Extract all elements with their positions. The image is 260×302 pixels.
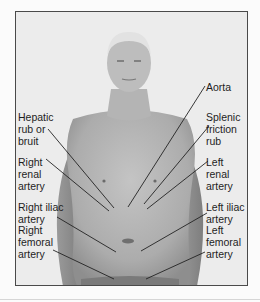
label-left-renal-artery: Left renal artery bbox=[206, 156, 233, 192]
label-left-iliac-artery: Left iliac artery bbox=[206, 201, 245, 225]
label-right-iliac-artery: Right iliac artery bbox=[18, 201, 64, 225]
figure-frame: Hepatic rub or bruit Right renal artery … bbox=[15, 11, 248, 286]
neck bbox=[107, 89, 151, 121]
label-left-femoral-artery: Left femoral artery bbox=[206, 224, 241, 260]
label-splenic-friction-rub: Splenic friction rub bbox=[206, 111, 240, 147]
label-aorta: Aorta bbox=[206, 81, 231, 93]
torso bbox=[67, 110, 195, 285]
label-right-femoral-artery: Right femoral artery bbox=[18, 224, 53, 260]
label-right-renal-artery: Right renal artery bbox=[18, 156, 45, 192]
label-hepatic-rub: Hepatic rub or bruit bbox=[18, 111, 54, 147]
divider bbox=[0, 299, 260, 300]
